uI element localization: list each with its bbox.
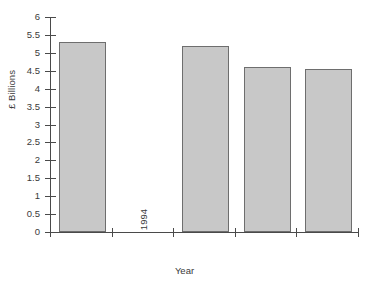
y-axis-tick bbox=[45, 53, 56, 54]
y-axis-tick-label: 1 bbox=[2, 191, 40, 201]
bar-1993 bbox=[59, 42, 106, 232]
y-axis-tick-label: 2.5 bbox=[2, 137, 40, 147]
bar-1997 bbox=[305, 69, 352, 232]
y-axis-tick-label: 3 bbox=[2, 120, 40, 130]
x-axis-tick bbox=[50, 228, 51, 237]
y-axis-tick-label: 5.5 bbox=[2, 30, 40, 40]
y-axis-tick bbox=[45, 71, 56, 72]
y-axis-tick bbox=[45, 196, 56, 197]
y-axis-tick-label: 1.5 bbox=[2, 173, 40, 183]
y-axis-tick-label: 3.5 bbox=[2, 102, 40, 112]
y-axis-tick-label: 6 bbox=[2, 12, 40, 22]
y-axis-tick bbox=[45, 214, 56, 215]
y-axis-tick-label: 4 bbox=[2, 84, 40, 94]
y-axis-tick bbox=[45, 160, 56, 161]
y-axis-tick bbox=[45, 17, 56, 18]
x-axis-title: Year bbox=[0, 265, 369, 276]
y-axis-tick bbox=[45, 178, 56, 179]
y-axis-tick-label: 0 bbox=[2, 227, 40, 237]
y-axis-tick-label: 0.5 bbox=[2, 209, 40, 219]
y-axis-tick-label: 4.5 bbox=[2, 66, 40, 76]
y-axis-tick-label: 2 bbox=[2, 155, 40, 165]
y-axis-tick bbox=[45, 89, 56, 90]
x-axis-tick bbox=[112, 228, 113, 237]
bar-1996 bbox=[244, 67, 291, 232]
y-axis-tick-label: 5 bbox=[2, 48, 40, 58]
x-axis-tick bbox=[358, 228, 359, 237]
x-axis-tick bbox=[173, 228, 174, 237]
x-axis-tick bbox=[296, 228, 297, 237]
y-axis-tick bbox=[45, 35, 56, 36]
y-axis-tick bbox=[45, 142, 56, 143]
x-axis-tick-label: 1994 bbox=[138, 209, 150, 249]
bar-1995 bbox=[182, 46, 229, 232]
y-axis-tick bbox=[45, 125, 56, 126]
y-axis-tick bbox=[45, 107, 56, 108]
bar-chart: £ Billions 00.511.522.533.544.555.56 199… bbox=[0, 0, 369, 286]
x-axis-tick bbox=[235, 228, 236, 237]
